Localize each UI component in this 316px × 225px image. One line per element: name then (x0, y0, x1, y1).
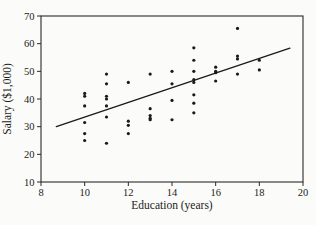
x-tick-label: 20 (298, 187, 309, 198)
data-point (236, 57, 239, 60)
x-axis-label: Education (years) (131, 199, 213, 212)
data-point (192, 59, 195, 62)
y-tick-label: 20 (24, 149, 35, 160)
data-point (105, 115, 108, 118)
data-point (192, 70, 195, 73)
data-point (192, 102, 195, 105)
data-point (83, 95, 86, 98)
data-point (105, 97, 108, 100)
data-point (127, 124, 130, 127)
trend-line (56, 48, 290, 127)
axis-ticks (37, 16, 303, 186)
data-point (127, 120, 130, 123)
data-point (105, 73, 108, 76)
y-tick-label: 70 (24, 11, 35, 22)
scatter-plot: 810121416182010203040506070 Education (y… (0, 0, 316, 225)
data-point (83, 139, 86, 142)
data-point (83, 132, 86, 135)
data-point (258, 68, 261, 71)
data-point (149, 114, 152, 117)
x-tick-label: 8 (38, 187, 43, 198)
data-point (127, 132, 130, 135)
data-point (127, 81, 130, 84)
data-point (105, 82, 108, 85)
data-point (214, 66, 217, 69)
data-point (149, 73, 152, 76)
y-tick-label: 30 (24, 121, 35, 132)
data-point (170, 99, 173, 102)
x-tick-label: 10 (79, 187, 90, 198)
data-point (83, 92, 86, 95)
data-point (105, 142, 108, 145)
y-tick-label: 40 (24, 94, 35, 105)
x-tick-label: 14 (167, 187, 178, 198)
data-point (236, 27, 239, 30)
y-tick-label: 50 (24, 66, 35, 77)
data-point (236, 55, 239, 58)
scatter-figure: 810121416182010203040506070 Education (y… (0, 0, 316, 225)
data-point (149, 107, 152, 110)
data-point (192, 93, 195, 96)
data-point (214, 79, 217, 82)
data-point (149, 118, 152, 121)
data-point (83, 121, 86, 124)
y-tick-label: 60 (24, 38, 35, 49)
data-point (170, 70, 173, 73)
axis-tick-labels: 810121416182010203040506070 (24, 11, 308, 198)
data-point (192, 111, 195, 114)
y-axis-label: Salary ($1,000) (1, 63, 14, 135)
data-point (83, 104, 86, 107)
data-point (105, 95, 108, 98)
data-point (105, 104, 108, 107)
y-tick-label: 10 (24, 177, 35, 188)
data-point (170, 118, 173, 121)
data-point (192, 46, 195, 49)
data-points (83, 27, 261, 145)
x-tick-label: 18 (254, 187, 265, 198)
x-tick-label: 12 (123, 187, 134, 198)
data-point (170, 82, 173, 85)
x-tick-label: 16 (210, 187, 221, 198)
data-point (236, 73, 239, 76)
